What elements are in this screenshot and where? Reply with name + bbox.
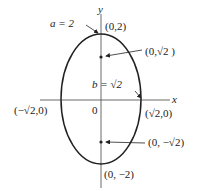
- right-covertex-label: (√2,0): [145, 107, 172, 120]
- upper-focus-label: (0,√2 ): [145, 45, 175, 58]
- upper-focus-dot: [99, 55, 102, 58]
- x-axis-label: x: [171, 93, 177, 105]
- b-annotation: b = √2: [92, 78, 122, 90]
- lower-focus-dot: [99, 140, 102, 143]
- ellipse-diagram: y x a = 2 (0,2) (0,√2 ) b = √2 (−√2,0) 0…: [0, 0, 201, 191]
- upper-focus-arrow: [106, 50, 142, 56]
- top-vertex-label: (0,2): [105, 20, 126, 33]
- y-axis-label: y: [97, 3, 103, 15]
- a-arrow: [86, 25, 98, 33]
- left-covertex-label: (−√2,0): [14, 104, 48, 117]
- a-annotation: a = 2: [50, 17, 74, 29]
- origin-label: 0: [92, 104, 98, 116]
- bottom-vertex-label: (0, −2): [104, 168, 134, 181]
- lower-focus-label: (0, −√2): [148, 136, 184, 149]
- lower-focus-arrow: [106, 142, 145, 143]
